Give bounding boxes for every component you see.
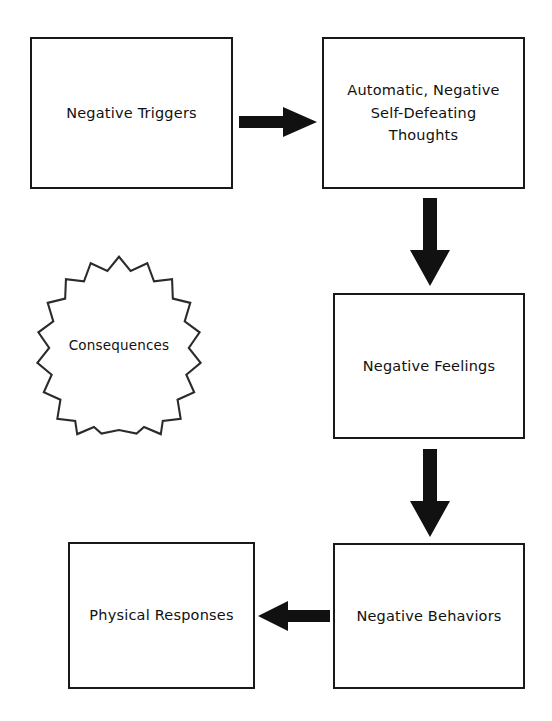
node-label-automatic-negative-thoughts: Automatic, Negative Self-Defeating Thoug…: [339, 79, 507, 146]
arrow-left-icon: [258, 598, 330, 634]
node-label-negative-feelings: Negative Feelings: [355, 355, 503, 377]
arrow-triggers-to-thoughts-icon: [239, 104, 317, 140]
node-physical-responses: Physical Responses: [68, 542, 255, 689]
node-label-wrapper-consequences: Consequences: [33, 253, 205, 437]
diagram-canvas: Negative Triggers Automatic, Negative Se…: [0, 0, 552, 721]
node-negative-triggers: Negative Triggers: [30, 37, 233, 189]
arrow-down-icon: [409, 198, 451, 286]
arrow-down-icon: [409, 449, 451, 537]
node-negative-feelings: Negative Feelings: [333, 293, 525, 439]
node-label-physical-responses: Physical Responses: [81, 604, 241, 626]
node-consequences: Consequences: [33, 253, 205, 437]
node-negative-behaviors: Negative Behaviors: [333, 543, 525, 689]
arrow-right-icon: [239, 104, 317, 140]
node-label-consequences: Consequences: [61, 335, 178, 356]
arrow-feelings-to-behaviors-icon: [409, 449, 451, 537]
arrow-behaviors-to-physical-icon: [258, 598, 330, 634]
node-label-negative-behaviors: Negative Behaviors: [348, 605, 509, 627]
arrow-thoughts-to-feelings-icon: [409, 198, 451, 286]
node-label-negative-triggers: Negative Triggers: [58, 102, 205, 124]
node-automatic-negative-thoughts: Automatic, Negative Self-Defeating Thoug…: [322, 37, 525, 189]
